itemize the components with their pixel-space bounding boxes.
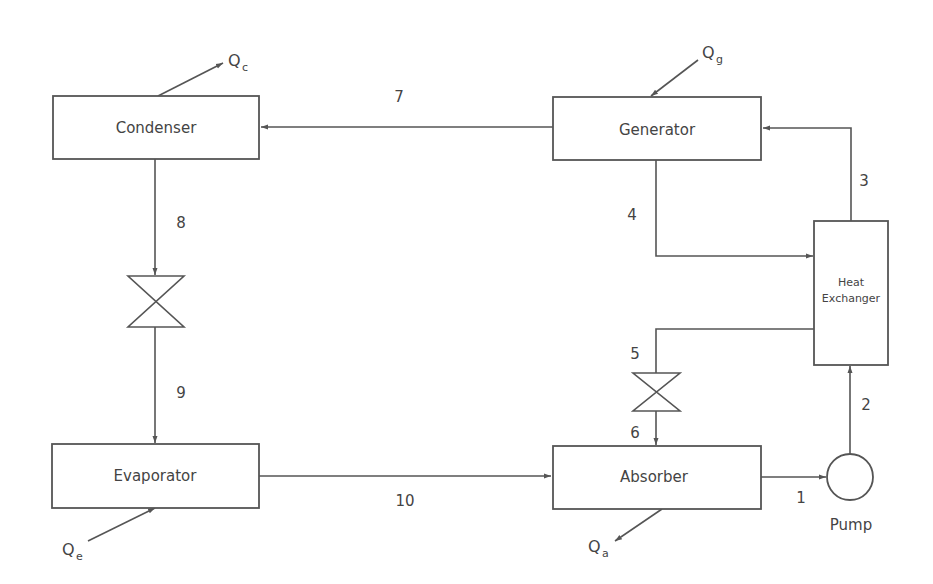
svg-text:a: a: [602, 547, 609, 560]
state-point-10: 10: [395, 492, 414, 510]
svg-text:Q: Q: [228, 51, 241, 70]
svg-text:Q: Q: [62, 540, 75, 559]
stream-3-line: [763, 128, 851, 221]
pump-block: Pump: [827, 454, 873, 534]
evaporator-block: Evaporator: [52, 444, 259, 508]
state-point-8: 8: [176, 214, 186, 232]
generator-block: Generator: [553, 97, 761, 160]
state-point-6: 6: [630, 424, 640, 442]
state-point-9: 9: [176, 384, 186, 402]
heat-label-evaporator: Q e: [62, 540, 83, 563]
expansion-valve-refrigerant: [128, 276, 184, 327]
condenser-label: Condenser: [116, 119, 197, 137]
state-point-1: 1: [796, 489, 806, 507]
svg-text:Q: Q: [702, 43, 715, 62]
svg-text:c: c: [242, 61, 248, 74]
heat-label-condenser: Q c: [228, 51, 248, 74]
state-point-3: 3: [859, 172, 869, 190]
heat-in-generator-arrow: [651, 60, 698, 96]
heat-out-condenser-arrow: [158, 63, 223, 96]
state-point-7: 7: [394, 88, 404, 106]
state-point-4: 4: [627, 206, 637, 224]
heat-exchanger-label-line2: Exchanger: [822, 292, 881, 305]
state-point-5: 5: [630, 345, 640, 363]
state-point-2: 2: [861, 396, 871, 414]
evaporator-label: Evaporator: [114, 467, 198, 485]
heat-exchanger-block: Heat Exchanger: [814, 221, 888, 365]
stream-5-line: [656, 329, 814, 373]
heat-in-evaporator-arrow: [88, 508, 155, 541]
absorber-label: Absorber: [620, 468, 689, 486]
expansion-valve-solution: [633, 373, 680, 411]
svg-text:Q: Q: [588, 537, 601, 556]
pump-label: Pump: [830, 516, 872, 534]
absorption-cycle-diagram: Condenser Generator Evaporator Absorber …: [0, 0, 933, 584]
svg-text:e: e: [76, 550, 83, 563]
generator-label: Generator: [619, 121, 696, 139]
heat-label-generator: Q g: [702, 43, 723, 66]
condenser-block: Condenser: [53, 96, 259, 159]
stream-4-line: [656, 160, 813, 256]
heat-label-absorber: Q a: [588, 537, 609, 560]
heat-out-absorber-arrow: [615, 509, 662, 541]
svg-text:g: g: [716, 53, 723, 66]
absorber-block: Absorber: [553, 446, 761, 509]
heat-exchanger-label-line1: Heat: [838, 276, 865, 289]
